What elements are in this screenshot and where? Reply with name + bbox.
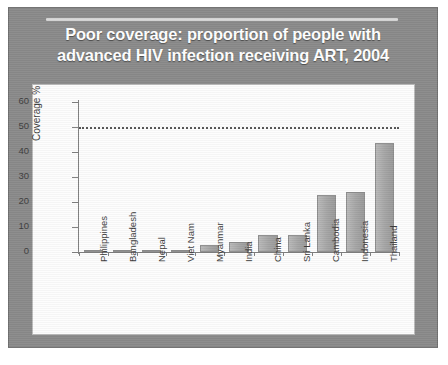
x-axis-tick-label: Myanmar	[214, 222, 225, 262]
x-axis-tick-label: Indonesia	[359, 221, 370, 262]
y-axis-tick-label: 10	[18, 220, 29, 231]
x-axis-tick-label: Bangladesh	[127, 212, 138, 262]
x-axis-tick-label: Viet Nam	[185, 223, 196, 262]
x-axis-tick-label: Thailand	[388, 226, 399, 262]
page-title: Poor coverage: proportion of people with…	[20, 24, 426, 66]
y-axis-tick-label-wrap: 60	[33, 102, 78, 103]
chart-panel: Coverage % 0102030405060 PhilippinesBang…	[33, 85, 414, 334]
y-axis-tick-label: 60	[18, 95, 29, 106]
y-axis-tick-label-wrap: 30	[33, 177, 78, 178]
page-title-line-1: Poor coverage: proportion of people with	[20, 24, 426, 45]
y-axis-title: Coverage %	[31, 86, 42, 141]
title-divider-rule	[46, 18, 398, 21]
y-axis-tick-label-wrap: 40	[33, 152, 78, 153]
y-axis-tick-label: 40	[18, 145, 29, 156]
x-axis-tick	[399, 252, 400, 256]
y-axis-tick-label: 20	[18, 195, 29, 206]
x-axis-tick-label: India	[243, 241, 254, 262]
x-axis-tick-label: Nepal	[156, 237, 167, 262]
y-axis-tick-label: 0	[24, 245, 29, 256]
x-axis-tick-label: Sri Lanka	[301, 222, 312, 262]
x-axis-tick-label: Philippines	[98, 216, 109, 262]
y-axis-tick-label-wrap: 10	[33, 227, 78, 228]
x-axis-tick-label: China	[272, 237, 283, 262]
y-axis-tick-label-wrap: 50	[33, 127, 78, 128]
y-axis-tick-label: 50	[18, 120, 29, 131]
x-axis-tick	[370, 252, 371, 256]
y-axis-tick-label-wrap: 20	[33, 202, 78, 203]
y-axis-tick-label: 30	[18, 170, 29, 181]
x-axis-tick-label: Cambodia	[330, 219, 341, 262]
slide: Poor coverage: proportion of people with…	[8, 7, 438, 348]
x-axis-tick	[79, 252, 80, 256]
y-axis-tick-label-wrap: 0	[33, 252, 78, 253]
page-title-line-2: advanced HIV infection receiving ART, 20…	[20, 45, 426, 66]
